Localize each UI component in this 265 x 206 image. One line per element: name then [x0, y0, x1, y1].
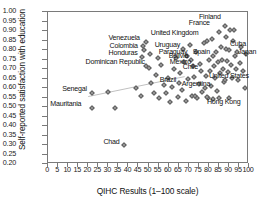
- y-tick-label: 1.00: [0, 7, 16, 14]
- y-tick-label: 0.40: [0, 121, 16, 128]
- point-label: Japan: [238, 48, 256, 56]
- point-label: France: [189, 19, 210, 27]
- point-label: Senegal: [62, 85, 87, 93]
- y-tick-label: 0.25: [0, 150, 16, 157]
- point-label: Dominican Republic: [85, 58, 145, 66]
- x-tick-label: 100: [239, 166, 257, 174]
- point-label: Hong Kong: [207, 98, 241, 106]
- point-label: Spain: [193, 48, 210, 56]
- y-tick-label: 0.90: [0, 26, 16, 33]
- y-tick-label: 0.30: [0, 140, 16, 147]
- y-tick-label: 0.35: [0, 131, 16, 138]
- y-tick-label: 0.85: [0, 36, 16, 43]
- y-tick-label: 0.50: [0, 102, 16, 109]
- y-tick-label: 0.55: [0, 93, 16, 100]
- point-label: Brazil: [160, 76, 177, 84]
- y-tick-label: 0.95: [0, 17, 16, 24]
- point-label: Chad: [103, 138, 119, 146]
- plot-area: FinlandFranceCubaUnited KingdomVenezuela…: [47, 11, 248, 163]
- point-label: Mauritania: [50, 100, 81, 108]
- y-tick-label: 0.75: [0, 55, 16, 62]
- y-tick-label: 0.65: [0, 74, 16, 81]
- y-tick-label: 0.70: [0, 64, 16, 71]
- x-axis-title: QIHC Results (1–100 scale): [47, 186, 248, 196]
- y-tick-label: 0.45: [0, 112, 16, 119]
- point-label: Honduras: [108, 49, 137, 57]
- point-label: United States: [209, 72, 249, 80]
- y-tick-label: 0.60: [0, 83, 16, 90]
- point-label: Chile: [183, 63, 198, 71]
- y-tick-label: 0.80: [0, 45, 16, 52]
- point-label: United Kingdom: [151, 29, 199, 37]
- point-label: Argentina: [182, 80, 211, 88]
- y-axis-title: Self-reported satisfaction with educatio…: [18, 5, 27, 155]
- y-tick-label: 0.20: [0, 159, 16, 166]
- scatter-chart: Self-reported satisfaction with educatio…: [0, 0, 265, 206]
